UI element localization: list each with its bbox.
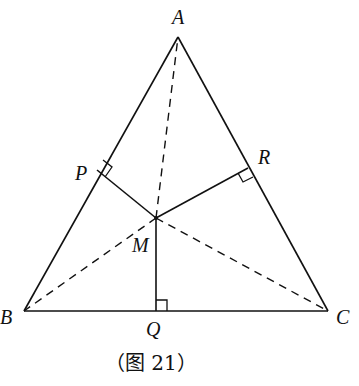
label-m: M <box>131 234 150 256</box>
perpendicular-mr <box>156 168 248 218</box>
perpendicular-mp <box>97 170 156 218</box>
label-r: R <box>257 146 270 168</box>
label-b: B <box>0 306 12 328</box>
right-angle-mark-q <box>156 300 167 311</box>
label-p: P <box>74 162 87 184</box>
point-m-dot <box>154 216 158 220</box>
label-a: A <box>170 6 185 28</box>
side-ac <box>178 37 328 311</box>
figure-caption: （图 21） <box>105 351 197 375</box>
dashed-ma <box>156 37 178 218</box>
triangle-diagram: A B C M P Q R （图 21） <box>0 0 359 386</box>
right-angle-mark-r <box>238 173 253 182</box>
label-c: C <box>336 306 350 328</box>
label-q: Q <box>146 318 161 340</box>
dashed-mb <box>24 218 156 311</box>
